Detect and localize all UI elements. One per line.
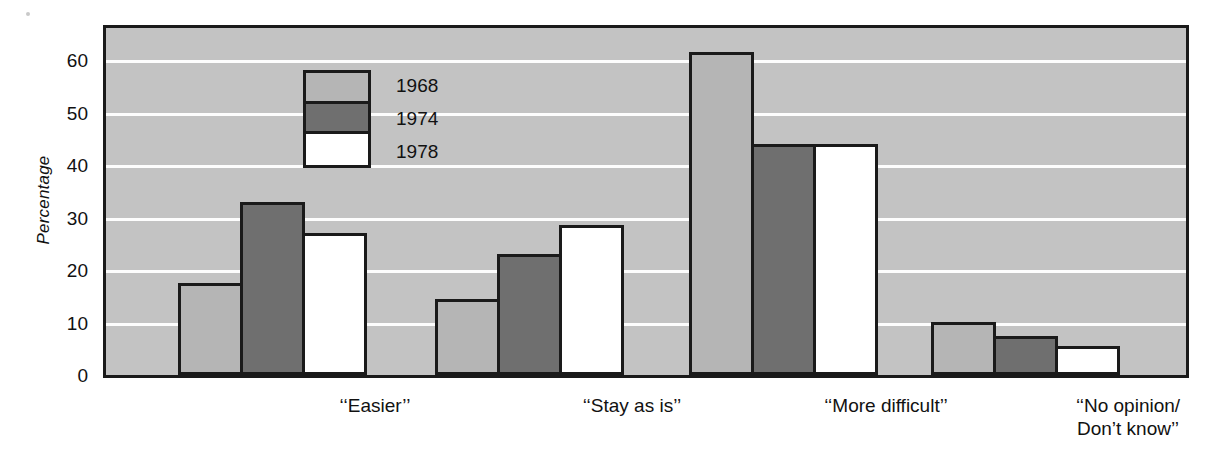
legend-swatch-1968 <box>306 73 368 104</box>
bar-1968-group-2 <box>689 52 754 375</box>
legend-label-1974: 1974 <box>396 109 438 128</box>
legend-label-1978: 1978 <box>396 142 438 161</box>
y-tick-0: 0 <box>42 366 88 385</box>
y-tick-10: 10 <box>42 314 88 333</box>
legend-swatch-1978 <box>306 134 368 165</box>
y-tick-40: 40 <box>42 156 88 175</box>
legend-swatch-1974 <box>306 104 368 135</box>
bar-1968-group-1 <box>435 299 500 375</box>
x-label-3: ‘‘No opinion/ Don’t know’’ <box>968 394 1219 440</box>
gridline-60 <box>106 60 1186 63</box>
legend-label-1968: 1968 <box>396 76 438 95</box>
y-tick-30: 30 <box>42 209 88 228</box>
bar-chart-figure: Percentage 6050403020100 1968 1974 1978 … <box>0 0 1219 467</box>
y-tick-50: 50 <box>42 104 88 123</box>
gridline-40 <box>106 165 1186 168</box>
plot-area: 1968 1974 1978 <box>103 25 1189 378</box>
bar-1978-group-2 <box>813 144 878 375</box>
y-tick-60: 60 <box>42 51 88 70</box>
bar-1974-group-0 <box>240 202 305 375</box>
bar-1978-group-3 <box>1055 346 1120 375</box>
bar-1968-group-0 <box>178 283 243 375</box>
bar-1974-group-3 <box>993 336 1058 375</box>
gridline-50 <box>106 113 1186 116</box>
bar-1968-group-3 <box>931 322 996 375</box>
bar-1974-group-1 <box>497 254 562 375</box>
legend-box <box>303 70 371 168</box>
y-axis-title: Percentage <box>34 130 54 270</box>
bar-1978-group-1 <box>559 225 624 375</box>
bar-1978-group-0 <box>302 233 367 375</box>
bar-1974-group-2 <box>751 144 816 375</box>
y-tick-20: 20 <box>42 261 88 280</box>
scan-speck <box>26 12 30 16</box>
